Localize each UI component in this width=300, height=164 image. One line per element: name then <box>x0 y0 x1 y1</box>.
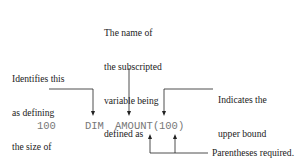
open-paren-arrowhead <box>148 134 152 139</box>
close-paren-arrowhead <box>173 134 177 139</box>
name-arrowhead <box>127 111 131 116</box>
paren-connector-line <box>150 137 208 153</box>
dim-arrowhead <box>91 111 95 116</box>
bound-connector-arrow <box>164 89 213 112</box>
dim-connector-arrow <box>49 89 93 112</box>
connector-lines <box>0 0 300 164</box>
bound-arrowhead <box>162 111 166 116</box>
